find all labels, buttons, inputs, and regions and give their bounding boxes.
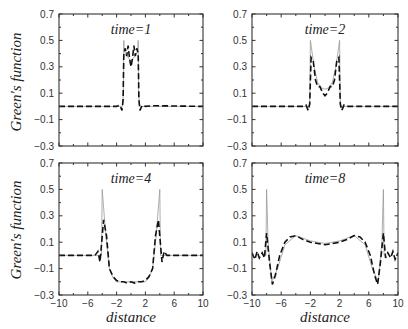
- y-tick-label: −0.1: [227, 263, 247, 274]
- approximation-curve: [59, 46, 203, 111]
- y-tick-label: 0.3: [233, 210, 247, 221]
- y-tick-label: −0.1: [227, 114, 247, 125]
- y-tick-label: −0.3: [227, 141, 247, 152]
- y-tick-label: 0.7: [40, 9, 54, 20]
- figure: −0.3−0.10.10.30.50.7time=1−0.3−0.10.10.3…: [0, 0, 408, 329]
- y-tick-label: 0.1: [40, 237, 54, 248]
- chart-panel-1: −0.3−0.10.10.30.50.7time=1: [34, 9, 203, 152]
- y-tick-label: 0.5: [233, 35, 247, 46]
- panel-title: time=2: [305, 22, 346, 37]
- y-tick-label: −0.3: [227, 290, 247, 301]
- exact-curve: [59, 40, 203, 106]
- y-tick-label: 0.3: [40, 61, 54, 72]
- y-tick-label: 0.3: [233, 61, 247, 72]
- x-tick-label: 6: [171, 298, 177, 309]
- y-tick-label: 0.7: [40, 158, 54, 169]
- y-tick-label: 0.5: [233, 184, 247, 195]
- x-tick-label: 6: [366, 298, 372, 309]
- x-tick-label: 2: [143, 298, 149, 309]
- x-tick-label: −2: [305, 298, 317, 309]
- y-tick-label: 0.5: [40, 184, 54, 195]
- approximation-curve: [252, 58, 398, 111]
- chart-panel-4: −10−6−22610−0.3−0.10.10.30.50.7time=8: [227, 158, 404, 310]
- y-tick-label: 0.3: [40, 210, 54, 221]
- x-tick-label: −6: [275, 298, 287, 309]
- x-axis-label-right: distance: [300, 309, 350, 325]
- exact-curve: [266, 189, 384, 281]
- y-tick-label: 0.1: [40, 88, 54, 99]
- y-axis-label-bottom: Green's function: [8, 181, 24, 280]
- y-tick-label: 0.1: [233, 237, 247, 248]
- panel-title: time=4: [111, 171, 152, 186]
- y-tick-label: −0.1: [34, 114, 54, 125]
- x-tick-label: 10: [197, 298, 209, 309]
- y-tick-label: 0.7: [233, 158, 247, 169]
- y-tick-label: 0.7: [233, 9, 247, 20]
- chart-panel-2: −0.3−0.10.10.30.50.7time=2: [227, 9, 398, 152]
- x-tick-label: 10: [392, 298, 404, 309]
- y-tick-label: −0.3: [34, 290, 54, 301]
- chart-panel-3: −10−6−22610−0.3−0.10.10.30.50.7time=4: [34, 158, 209, 310]
- x-tick-label: 2: [337, 298, 343, 309]
- y-axis-label-top: Green's function: [8, 33, 24, 132]
- x-axis-label-left: distance: [106, 309, 156, 325]
- panel-title: time=1: [111, 22, 152, 37]
- y-tick-label: −0.3: [34, 141, 54, 152]
- x-tick-label: −6: [82, 298, 94, 309]
- panel-title: time=8: [305, 171, 346, 186]
- approximation-curve: [59, 220, 203, 283]
- y-tick-label: 0.1: [233, 88, 247, 99]
- y-tick-label: 0.5: [40, 35, 54, 46]
- exact-curve: [59, 189, 203, 281]
- x-tick-label: −2: [111, 298, 123, 309]
- y-tick-label: −0.1: [34, 263, 54, 274]
